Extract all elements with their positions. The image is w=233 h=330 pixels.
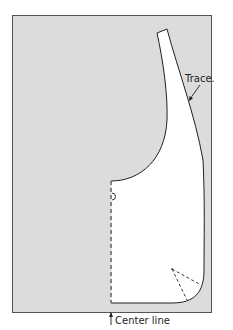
dart-point xyxy=(171,268,173,270)
pattern-diagram xyxy=(0,0,233,330)
trace-label: Trace. xyxy=(185,74,215,84)
center-line-label: Center line xyxy=(115,316,170,326)
